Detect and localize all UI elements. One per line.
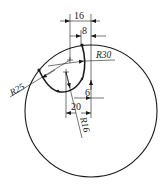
profile-top-arc: [39, 45, 82, 70]
dim-r16: R16: [78, 115, 92, 134]
tangent-point: [81, 78, 83, 80]
technical-drawing: 16 8 R30 R25 6 20 R16: [0, 0, 167, 191]
tangent-point: [37, 68, 40, 71]
dim-8: 8: [82, 25, 87, 36]
dim-20: 20: [71, 101, 81, 112]
dim-16: 16: [74, 10, 84, 21]
dim-6: 6: [85, 87, 90, 98]
dim-r25: R25: [7, 81, 26, 98]
center-mark: [63, 57, 73, 75]
tangent-point: [57, 90, 59, 92]
dim-r30: R30: [95, 50, 112, 60]
